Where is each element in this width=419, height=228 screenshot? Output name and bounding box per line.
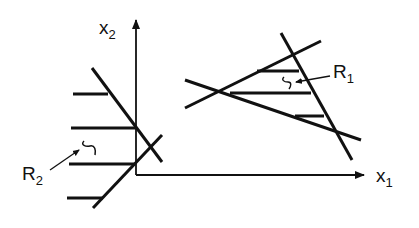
r1-boundary-line-a xyxy=(185,41,321,108)
axes xyxy=(136,20,364,175)
x2-axis-label: x2 xyxy=(99,17,116,42)
r1-boundary-line-c xyxy=(281,33,352,160)
r2-squiggle-icon xyxy=(83,141,96,155)
r2-pointer-arrow xyxy=(50,150,79,170)
diagram-canvas: x2 x1 R2 R1 xyxy=(0,0,419,228)
r1-squiggle-icon xyxy=(283,77,291,89)
x1-axis-label: x1 xyxy=(376,165,393,190)
r2-boundary-line-2 xyxy=(93,135,162,208)
region-r1 xyxy=(185,33,361,160)
region-r2 xyxy=(67,68,162,208)
r1-pointer-arrow xyxy=(296,76,330,82)
r2-label: R2 xyxy=(22,163,43,188)
r1-label: R1 xyxy=(333,61,354,86)
